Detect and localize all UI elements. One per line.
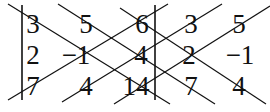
cell-r2c2: 14	[123, 73, 150, 100]
cell-r1c1: −1	[62, 42, 91, 69]
cell-r1c2: 4	[134, 42, 148, 69]
cell-r0c4: 5	[232, 11, 246, 38]
cell-r0c3: 3	[184, 11, 198, 38]
cell-r1c3: 2	[182, 42, 196, 69]
cell-r0c0: 3	[26, 11, 40, 38]
cell-r1c0: 2	[26, 42, 40, 69]
sarrus-diagram: 3 5 6 3 5 2 −1 4 2 −1 7 4 14 7 4	[0, 0, 270, 112]
cell-r2c3: 7	[184, 73, 198, 100]
cell-r1c4: −1	[226, 42, 255, 69]
cell-r0c2: 6	[135, 11, 149, 38]
cell-r0c1: 5	[79, 11, 93, 38]
cell-r2c0: 7	[26, 73, 40, 100]
cell-r2c1: 4	[79, 73, 93, 100]
cell-r2c4: 4	[232, 73, 246, 100]
